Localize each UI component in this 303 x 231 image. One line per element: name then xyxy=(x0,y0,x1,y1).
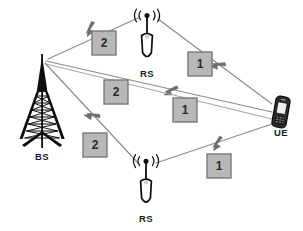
node-label-bs: BS xyxy=(35,151,49,162)
hop-box-label: 1 xyxy=(216,159,223,173)
links-layer xyxy=(45,18,272,164)
link-rs-top-to-ue xyxy=(158,19,272,104)
hop-box-rs-top-to-ue[interactable]: 1 xyxy=(188,52,212,76)
hop-box-label: 1 xyxy=(197,57,204,71)
hop-box-label: 1 xyxy=(182,103,189,117)
tower-icon xyxy=(20,54,65,148)
relay-network-diagram: BS RS xyxy=(0,0,303,231)
link-line xyxy=(46,61,272,112)
node-bs[interactable]: BS xyxy=(20,54,65,162)
link-bs-to-ue-upper xyxy=(46,61,272,112)
node-ue[interactable]: UE xyxy=(271,95,291,138)
hop-box-bs-to-ue-upper[interactable]: 2 xyxy=(104,80,128,104)
node-label-rs-bottom: RS xyxy=(139,213,153,224)
zigzag-arrow-icon xyxy=(84,107,101,124)
node-label-rs-top: RS xyxy=(140,68,154,79)
link-bs-to-ue-lower xyxy=(46,64,272,119)
node-rs-bottom[interactable]: RS xyxy=(133,155,158,224)
hop-box-label: 2 xyxy=(113,85,120,99)
hop-box-rs-bottom-to-ue[interactable]: 1 xyxy=(207,154,231,178)
node-label-ue: UE xyxy=(274,127,288,138)
diagram-canvas: BS RS xyxy=(0,0,303,231)
zigzag-arrow-icon xyxy=(210,135,226,150)
hop-box-label: 2 xyxy=(92,138,99,152)
hop-box-bs-to-rs-top[interactable]: 2 xyxy=(92,31,116,55)
hop-box-bs-to-ue-lower[interactable]: 1 xyxy=(173,98,197,122)
link-line xyxy=(158,19,272,104)
mobile-phone-icon xyxy=(271,95,291,128)
hop-box-bs-to-rs-bottom[interactable]: 2 xyxy=(83,133,107,157)
relay-station-icon xyxy=(134,9,159,57)
hop-box-label: 2 xyxy=(101,36,108,50)
link-line xyxy=(46,64,272,119)
node-rs-top[interactable]: RS xyxy=(134,9,159,79)
